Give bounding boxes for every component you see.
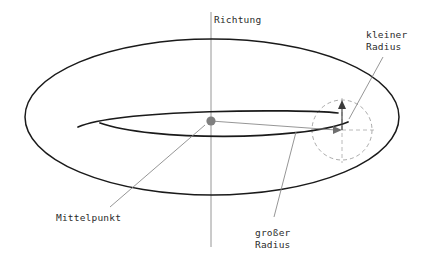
label-minor-radius-line2: Radius (366, 41, 402, 52)
torus-figure: Richtung kleiner Radius Mittelpunkt groß… (0, 0, 430, 266)
label-minor-radius-line1: kleiner (366, 29, 408, 40)
label-major-radius-line2: Radius (255, 239, 291, 250)
label-direction: Richtung (214, 14, 261, 25)
label-center-point: Mittelpunkt (56, 212, 121, 223)
torus-diagram-canvas: Richtung kleiner Radius Mittelpunkt groß… (0, 0, 430, 266)
label-major-radius-line1: großer (255, 227, 291, 238)
center-point-dot (206, 116, 215, 125)
